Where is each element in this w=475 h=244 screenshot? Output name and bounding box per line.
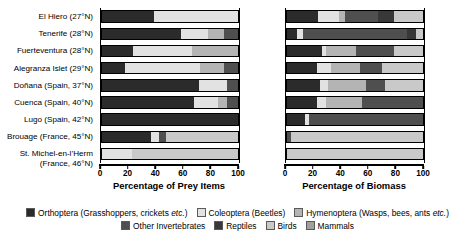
stacked-bar[interactable] bbox=[101, 113, 239, 126]
bar-segment bbox=[159, 132, 166, 143]
bar-segment bbox=[378, 11, 394, 22]
legend-item[interactable]: Coleoptera (Beetles) bbox=[197, 208, 286, 218]
legend-swatch bbox=[197, 208, 206, 217]
legend-item[interactable]: Orthoptera (Grasshoppers, crickets etc.) bbox=[26, 208, 187, 218]
bar-segment bbox=[287, 29, 297, 40]
bar-segment bbox=[102, 46, 133, 57]
bar-segment bbox=[356, 46, 394, 57]
bar-segment bbox=[362, 97, 423, 108]
bar-segment bbox=[339, 11, 346, 22]
stacked-bar[interactable] bbox=[101, 10, 239, 23]
axis-tick-label: 40 bbox=[336, 169, 345, 178]
bar-segment bbox=[320, 80, 328, 91]
bar-segment bbox=[102, 149, 132, 160]
stacked-bar[interactable] bbox=[101, 28, 239, 41]
axis-line bbox=[99, 164, 239, 166]
bar-row bbox=[286, 42, 424, 59]
stacked-bar[interactable] bbox=[286, 79, 424, 92]
axis-tick-label: 60 bbox=[178, 169, 187, 178]
axis-tick-label: 0 bbox=[283, 169, 288, 178]
category-label: El Hiero (27°N) bbox=[0, 8, 96, 25]
bar-row bbox=[101, 77, 239, 94]
category-label: Doñana (Spain, 37°N) bbox=[0, 77, 96, 94]
legend-item[interactable]: Other Invertebrates bbox=[121, 221, 205, 231]
axis-tick-label: 20 bbox=[308, 169, 317, 178]
legend-swatch bbox=[121, 221, 130, 230]
legend-label: Coleoptera (Beetles) bbox=[209, 208, 286, 218]
plot-area-prey-items bbox=[100, 8, 240, 163]
bar-row bbox=[101, 128, 239, 145]
category-label: Fuerteventura (28°N) bbox=[0, 42, 96, 59]
bar-segment bbox=[407, 29, 417, 40]
bar-segment bbox=[394, 46, 423, 57]
stacked-bar[interactable] bbox=[286, 131, 424, 144]
bar-segment bbox=[297, 29, 304, 40]
bar-row bbox=[286, 25, 424, 42]
category-label-line2: (France, 46°N) bbox=[40, 159, 93, 170]
bar-segment bbox=[366, 80, 385, 91]
stacked-bar[interactable] bbox=[101, 131, 239, 144]
stacked-bar[interactable] bbox=[101, 62, 239, 75]
bar-segment bbox=[102, 114, 238, 125]
bar-row bbox=[101, 25, 239, 42]
stacked-bar[interactable] bbox=[286, 113, 424, 126]
bar-segment bbox=[385, 80, 423, 91]
category-labels-column: El Hiero (27°N)Tenerife (28°N)Fuertevent… bbox=[0, 8, 96, 173]
legend-label: Orthoptera (Grasshoppers, crickets etc.) bbox=[38, 208, 187, 218]
panel-biomass: Percentage of Biomass 020406080100 bbox=[285, 8, 425, 184]
bar-segment bbox=[291, 132, 423, 143]
bar-segment bbox=[102, 132, 151, 143]
axis-line bbox=[284, 164, 424, 166]
stacked-bar[interactable] bbox=[286, 10, 424, 23]
bar-segment bbox=[287, 63, 317, 74]
legend-label: Reptiles bbox=[226, 221, 256, 231]
bar-segment bbox=[287, 46, 322, 57]
stacked-bar[interactable] bbox=[286, 96, 424, 109]
legend-item[interactable]: Reptiles bbox=[214, 221, 256, 231]
bar-segment bbox=[102, 80, 199, 91]
plot-area-biomass bbox=[285, 8, 425, 163]
legend-row-2: Other InvertebratesReptilesBirdsMammals bbox=[0, 219, 475, 232]
legend-row-1: Orthoptera (Grasshoppers, crickets etc.)… bbox=[0, 206, 475, 219]
stacked-bar[interactable] bbox=[101, 79, 239, 92]
bar-row bbox=[286, 8, 424, 25]
bar-segment bbox=[309, 114, 423, 125]
bar-segment bbox=[133, 46, 191, 57]
bar-segment bbox=[199, 80, 228, 91]
stacked-bar[interactable] bbox=[286, 28, 424, 41]
category-label: Tenerife (28°N) bbox=[0, 25, 96, 42]
bar-segment bbox=[360, 63, 382, 74]
category-label: Lugo (Spain, 42°N) bbox=[0, 111, 96, 128]
legend-label: Mammals bbox=[318, 221, 354, 231]
bar-segment bbox=[132, 149, 238, 160]
legend-item[interactable]: Mammals bbox=[306, 221, 354, 231]
bar-segment bbox=[224, 29, 238, 40]
stacked-bar[interactable] bbox=[101, 96, 239, 109]
stacked-bar[interactable] bbox=[101, 45, 239, 58]
stacked-bar[interactable] bbox=[286, 45, 424, 58]
legend-swatch bbox=[306, 221, 315, 230]
bar-row bbox=[101, 42, 239, 59]
bar-segment bbox=[102, 97, 194, 108]
legend-label: Birds bbox=[278, 221, 297, 231]
bar-segment bbox=[303, 29, 406, 40]
bar-segment bbox=[227, 80, 238, 91]
bar-row bbox=[101, 60, 239, 77]
bar-segment bbox=[102, 63, 125, 74]
bar-row bbox=[286, 94, 424, 111]
stacked-bar[interactable] bbox=[286, 62, 424, 75]
bar-segment bbox=[287, 149, 423, 160]
bar-segment bbox=[328, 80, 366, 91]
legend-swatch bbox=[26, 208, 35, 217]
bar-segment bbox=[317, 63, 331, 74]
stacked-bar-chart-figure: El Hiero (27°N)Tenerife (28°N)Fuertevent… bbox=[0, 0, 475, 244]
legend-item[interactable]: Hymenoptera (Wasps, bees, ants etc.) bbox=[294, 208, 449, 218]
bar-row bbox=[101, 8, 239, 25]
bar-segment bbox=[102, 11, 154, 22]
x-axis-prey-items: Percentage of Prey Items 020406080100 bbox=[100, 164, 238, 184]
legend-item[interactable]: Birds bbox=[266, 221, 297, 231]
stacked-bar[interactable] bbox=[101, 148, 239, 161]
bar-segment bbox=[208, 29, 224, 40]
stacked-bar[interactable] bbox=[286, 148, 424, 161]
bar-segment bbox=[394, 11, 423, 22]
